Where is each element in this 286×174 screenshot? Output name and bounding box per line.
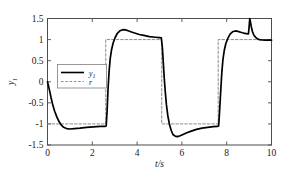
line-chart: 0246810 1.510.50-0.5-1-1.5 t/s y1 y1 r: [0, 0, 286, 174]
y-tick-label: 0: [39, 77, 44, 87]
legend-box: [58, 65, 107, 89]
x-tick-label: 2: [90, 148, 95, 158]
x-tick-label: 8: [224, 148, 229, 158]
x-axis-label: t/s: [155, 159, 164, 169]
y-tick-label: 0.5: [32, 56, 44, 66]
x-tick-label: 4: [135, 148, 140, 158]
y-tick-label: -0.5: [28, 98, 43, 108]
figure-container: 0246810 1.510.50-0.5-1-1.5 t/s y1 y1 r: [0, 0, 286, 174]
chart-legend: y1 r: [58, 65, 107, 89]
x-tick-label: 0: [45, 148, 50, 158]
y-tick-label: -1: [36, 119, 44, 129]
y-tick-label: -1.5: [28, 140, 43, 150]
y-tick-label: 1: [39, 35, 44, 45]
y-tick-label: 1.5: [32, 14, 44, 24]
x-tick-label: 10: [267, 148, 277, 158]
x-tick-label: 6: [180, 148, 185, 158]
